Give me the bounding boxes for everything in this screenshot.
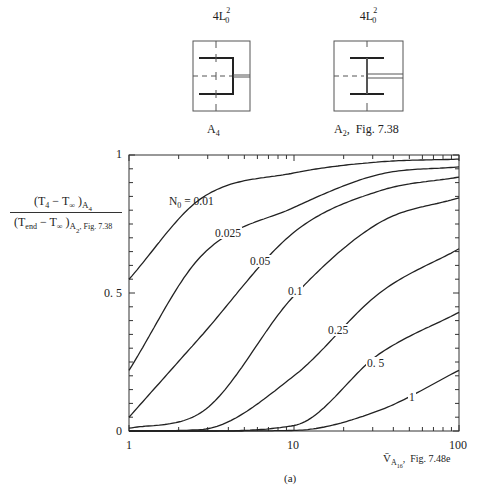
curve-label-0-01: N0 = 0.01 <box>168 195 215 212</box>
curve-label-0-025: 0.025 <box>214 227 242 239</box>
den-open: (T <box>14 215 25 229</box>
y-tick-0-5: 0. 5 <box>104 286 122 301</box>
diagram-a2 <box>334 41 403 111</box>
figure-canvas <box>0 0 478 492</box>
den-subscript-sub: 2 <box>76 227 80 235</box>
y-tick-1: 1 <box>116 147 122 162</box>
num-open: (T <box>34 194 45 208</box>
num-subscript-sub: 4 <box>88 205 92 213</box>
diagram-a4-caption: A4 <box>207 122 220 138</box>
y-axis-label: (T4 − T∞ )A4 (Tend − T∞ )A2, Fig. 7.38 <box>10 194 122 232</box>
label-text: = 0.01 <box>181 195 213 207</box>
den-subscript-tail: , Fig. 7.38 <box>79 223 112 232</box>
xlabel-subsub: 16 <box>397 463 403 469</box>
curve-00-01 <box>129 159 459 279</box>
diagram-a2-caption: A2, Fig. 7.38 <box>334 122 399 138</box>
x-tick-10: 10 <box>287 438 299 453</box>
caption-base: A <box>207 122 216 136</box>
diagram-a4 <box>193 41 250 111</box>
figure-caption: (a) <box>284 472 296 484</box>
y-tick-0: 0 <box>116 424 122 439</box>
den-sub1: end <box>25 223 37 232</box>
curve-label-0-5: 0. 5 <box>366 357 385 369</box>
curve-label-0-25: 0.25 <box>327 324 349 336</box>
curve-00-25 <box>129 249 459 431</box>
xlabel-tail: , Fig. 7.48e <box>403 453 451 464</box>
caption-sub: 4 <box>216 129 220 138</box>
curve-label-0-05: 0.05 <box>249 255 271 267</box>
num-close: ) <box>75 194 82 208</box>
caption-base: A <box>334 122 343 136</box>
x-tick-1: 1 <box>126 438 132 453</box>
x-axis-label: V̄A16, Fig. 7.48e <box>383 452 451 467</box>
xlabel-sub: A <box>391 458 397 467</box>
x-tick-100: 100 <box>449 438 467 453</box>
y-label-numerator: (T4 − T∞ )A4 <box>10 194 122 210</box>
curve-label-1: 1 <box>408 391 416 403</box>
curve-label-0-1: 0.1 <box>287 285 303 297</box>
den-mid: − T <box>37 215 57 229</box>
fraction-bar <box>10 212 122 213</box>
y-label-denominator: (Tend − T∞ )A2, Fig. 7.38 <box>10 215 122 231</box>
curve-00-5 <box>129 312 459 431</box>
num-mid: − T <box>49 194 69 208</box>
caption-suffix: , Fig. 7.38 <box>347 122 399 136</box>
den-subscript: A <box>69 222 76 232</box>
curve-00-05 <box>129 177 459 417</box>
xlabel-base: V̄ <box>383 452 391 464</box>
